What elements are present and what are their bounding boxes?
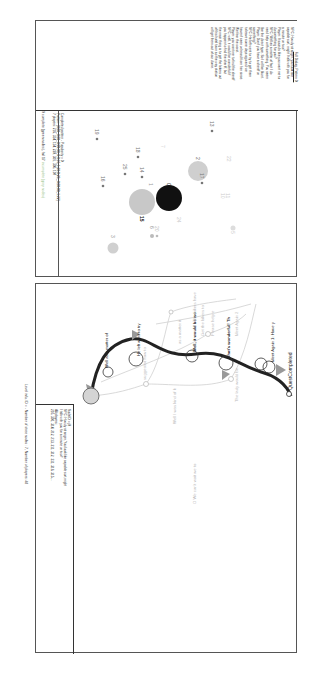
main-path [91, 339, 291, 396]
svg-text:2: 2 [195, 157, 201, 160]
svg-text:Get the bikers to: Get the bikers to [200, 305, 205, 336]
svg-text:The bikers have: The bikers have [192, 292, 197, 322]
svg-text:5: 5 [230, 231, 236, 234]
cluster-panel: Level info - Total number of sequences (… [35, 20, 297, 277]
svg-text:18: 18 [135, 147, 141, 153]
svg-text:Meet Again 1: Have y: Meet Again 1: Have y [270, 321, 275, 362]
cluster-15 [129, 189, 155, 215]
svg-text:Meet Again 2: Meet Again 2 [234, 311, 239, 336]
cluster-3 [108, 243, 119, 254]
svg-text:Please help e: Please help e [210, 310, 215, 336]
svg-text:17: 17 [199, 173, 205, 179]
flow-panel-header: Level info, ID = - Number of stree nodes… [24, 384, 28, 484]
svg-text:0: 0 [166, 183, 172, 186]
flow-graph: Well as a matter of He left went to try … [36, 284, 298, 654]
svg-text:1: 1 [148, 183, 154, 186]
svg-text:He left went to try: He left went to try [136, 323, 141, 356]
svg-text:O We can't wait we to: O We can't wait we to [192, 463, 197, 504]
svg-text:20: 20 [154, 226, 160, 232]
svg-text:24: 24 [176, 217, 182, 223]
svg-text:Well I was kind of k: Well I was kind of k [172, 387, 177, 424]
svg-text:14: 14 [139, 167, 145, 173]
svg-text:suggested how to: suggested how to [142, 347, 147, 380]
flow-panel: Level info, ID = - Number of stree nodes… [35, 283, 297, 653]
svg-text:25: 25 [122, 164, 128, 170]
cluster-0 [156, 185, 182, 211]
svg-text:Well as a matter of: Well as a matter of [104, 332, 109, 368]
svg-text:22: 22 [226, 156, 232, 162]
svg-text:15: 15 [139, 216, 145, 222]
svg-text:7: 7 [160, 145, 166, 148]
svg-text:11: 11 [225, 193, 231, 198]
cluster-scatter: 0 15 2 3 17 19 16 25 14 18 7 13 22 6 20 … [36, 21, 298, 278]
svg-text:QuestCompleted: QuestCompleted [287, 352, 293, 390]
svg-text:That's wonderful! Th: That's wonderful! Th [226, 317, 231, 358]
svg-text:16: 16 [100, 176, 106, 182]
svg-text:19: 19 [94, 129, 100, 135]
svg-text:13: 13 [209, 121, 215, 127]
svg-text:as a matter it: as a matter it [177, 319, 182, 344]
svg-text:The lady would be: The lady would be [234, 367, 239, 402]
svg-text:3: 3 [110, 235, 116, 238]
